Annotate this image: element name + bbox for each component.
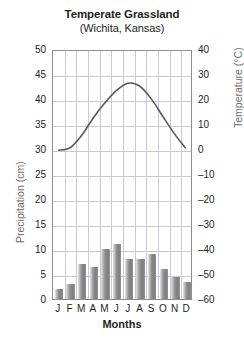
- temperature-tick-label: 20: [198, 95, 228, 105]
- temperature-tick-label: –10: [198, 170, 228, 180]
- temperature-tick-label: 10: [198, 120, 228, 130]
- chart-title: Temperate Grassland: [0, 8, 244, 22]
- climograph-chart: Temperate Grassland (Wichita, Kansas) 05…: [0, 0, 244, 345]
- plot-area: [52, 50, 192, 300]
- y-axis-title-temperature: Temperature (°C): [232, 47, 244, 128]
- y-axis-title-precipitation: Precipitation (cm): [14, 161, 26, 243]
- chart-title-block: Temperate Grassland (Wichita, Kansas): [0, 8, 244, 35]
- temperature-tick-label: –50: [198, 270, 228, 280]
- precipitation-tick-label: 50: [16, 45, 46, 55]
- temperature-tick-label: 0: [198, 145, 228, 155]
- precipitation-tick-label: 5: [16, 270, 46, 280]
- month-label-december: D: [179, 303, 193, 314]
- precipitation-tick-label: 35: [16, 120, 46, 130]
- temperature-tick-label: –40: [198, 245, 228, 255]
- precipitation-tick-label: 45: [16, 70, 46, 80]
- temperature-tick-label: –30: [198, 220, 228, 230]
- x-axis-title: Months: [52, 318, 192, 330]
- temperature-curve: [53, 51, 191, 299]
- temperature-tick-label: 30: [198, 70, 228, 80]
- temperature-tick-label: –60: [198, 295, 228, 305]
- precipitation-tick-label: 40: [16, 95, 46, 105]
- temperature-tick-label: 40: [198, 45, 228, 55]
- precipitation-tick-label: 30: [16, 145, 46, 155]
- precipitation-tick-label: 10: [16, 245, 46, 255]
- temperature-tick-label: –20: [198, 195, 228, 205]
- chart-subtitle: (Wichita, Kansas): [0, 22, 244, 35]
- precipitation-tick-label: 0: [16, 295, 46, 305]
